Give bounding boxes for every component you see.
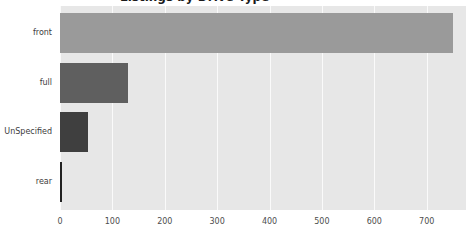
bar-unspecified (60, 112, 88, 152)
x-tick-label-200: 200 (145, 217, 185, 227)
chart-title: Listings by Drive Type (120, 0, 269, 4)
bar-front (60, 13, 453, 53)
x-tick-label-400: 400 (250, 217, 290, 227)
bar-chart-figure: Listings by Drive Type 01002003004005006… (0, 0, 475, 238)
y-category-label-full: full (0, 79, 52, 87)
x-tick-label-500: 500 (302, 217, 342, 227)
x-tick-label-100: 100 (92, 217, 132, 227)
y-category-label-unspecified: UnSpecified (0, 128, 52, 136)
x-tick-label-600: 600 (354, 217, 394, 227)
y-category-label-front: front (0, 29, 52, 37)
plot-area (60, 6, 466, 210)
x-tick-label-700: 700 (407, 217, 447, 227)
bar-full (60, 63, 128, 103)
y-category-label-rear: rear (0, 178, 52, 186)
x-tick-label-0: 0 (40, 217, 80, 227)
bar-rear (60, 162, 62, 202)
x-tick-label-300: 300 (197, 217, 237, 227)
